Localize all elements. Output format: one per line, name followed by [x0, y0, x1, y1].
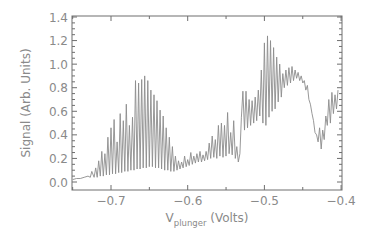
x-tick-label: −0.7 [96, 194, 125, 208]
y-tick-label: 0.2 [49, 152, 68, 166]
y-tick-label: 1.0 [49, 58, 68, 72]
x-tick-label: −0.4 [327, 194, 356, 208]
y-tick-label: 0.8 [49, 81, 68, 95]
x-axis: −0.7−0.6−0.5−0.4 [73, 16, 356, 208]
y-tick-label: 0.0 [49, 176, 68, 190]
x-tick-label: −0.5 [250, 194, 279, 208]
y-tick-label: 1.2 [49, 34, 68, 48]
x-axis-label-subscript: plunger [174, 218, 207, 228]
x-tick-label: −0.6 [173, 194, 202, 208]
chart: 0.00.20.40.60.81.01.21.4 −0.7−0.6−0.5−0.… [0, 0, 372, 239]
y-axis-label: Signal (Arb. Units) [19, 48, 33, 157]
x-axis-label: Vplunger (Volts) [166, 211, 249, 228]
y-tick-label: 1.4 [49, 11, 68, 25]
signal-trace [73, 36, 338, 180]
y-tick-label: 0.4 [49, 128, 68, 142]
x-axis-label-units: (Volts) [206, 211, 248, 225]
y-tick-label: 0.6 [49, 105, 68, 119]
